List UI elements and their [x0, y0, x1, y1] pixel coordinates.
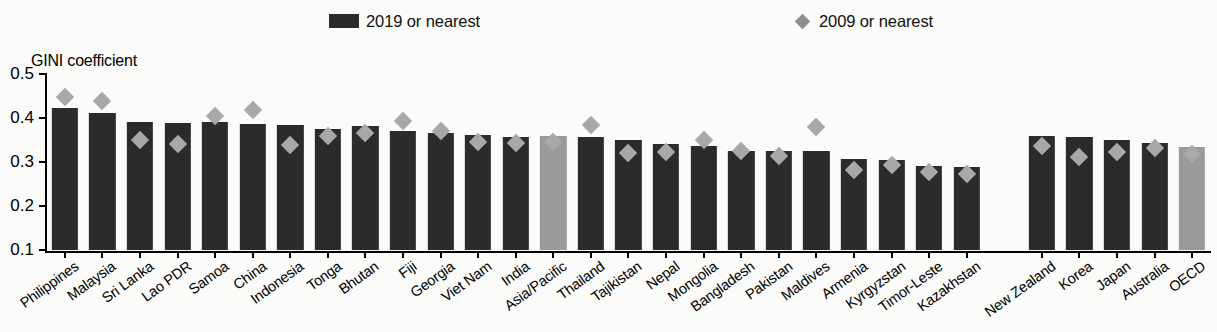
x-axis-tick-mark	[440, 251, 442, 258]
x-axis-tick-mark	[402, 251, 404, 258]
x-axis-tick-mark	[665, 251, 667, 258]
chart-category-slot: Viet Nam	[459, 0, 497, 332]
chart-bar	[465, 135, 491, 250]
chart-figure: 2019 or nearest 2009 or nearest GINI coe…	[0, 0, 1217, 332]
chart-bar	[728, 151, 754, 250]
chart-bar	[803, 151, 829, 250]
x-axis-tick-mark	[364, 251, 366, 258]
chart-category-slot: OECD	[1173, 0, 1211, 332]
x-axis-tick-mark	[214, 251, 216, 258]
chart-category-slot: Bhutan	[347, 0, 385, 332]
x-axis-tick-mark	[928, 251, 930, 258]
y-axis-tick-mark	[39, 205, 46, 207]
chart-bar	[578, 137, 604, 250]
chart-category-slot: New Zealand	[1023, 0, 1061, 332]
x-axis-tick-mark	[815, 251, 817, 258]
x-axis-tick-mark	[740, 251, 742, 258]
y-axis-tick-mark	[39, 161, 46, 163]
y-axis-tick-label: 0.5	[0, 65, 34, 82]
x-axis-tick-mark	[703, 251, 705, 258]
x-axis-tick-mark	[101, 251, 103, 258]
chart-diamond-marker	[93, 92, 111, 110]
chart-diamond-marker	[582, 115, 600, 133]
x-axis-tick-mark	[1116, 251, 1118, 258]
y-axis-tick-label: 0.2	[0, 197, 34, 214]
chart-bar	[352, 126, 378, 250]
chart-bar	[766, 151, 792, 250]
x-axis-tick-mark	[891, 251, 893, 258]
y-axis-tick-label: 0.1	[0, 241, 34, 258]
chart-diamond-marker	[56, 88, 74, 106]
chart-category-slot: Samoa	[196, 0, 234, 332]
x-axis-category-label: Fiji	[396, 258, 420, 281]
chart-category-slot: Korea	[1061, 0, 1099, 332]
y-axis-tick-mark	[39, 73, 46, 75]
chart-diamond-marker	[807, 118, 825, 136]
x-axis-category-label: Korea	[1056, 258, 1096, 293]
x-axis-tick-mark	[552, 251, 554, 258]
x-axis-tick-mark	[327, 251, 329, 258]
chart-bar	[1141, 143, 1167, 250]
chart-category-slot: Tajikistan	[610, 0, 648, 332]
x-axis-tick-mark	[853, 251, 855, 258]
chart-bar	[390, 131, 416, 250]
y-axis-tick-label: 0.4	[0, 109, 34, 126]
x-axis-tick-mark	[177, 251, 179, 258]
chart-category-slot: Indonesia	[271, 0, 309, 332]
x-axis-tick-mark	[1154, 251, 1156, 258]
chart-category-slot: Kazakhstan	[948, 0, 986, 332]
x-axis-tick-mark	[590, 251, 592, 258]
chart-bar	[240, 124, 266, 250]
chart-bar	[503, 137, 529, 250]
x-axis-tick-mark	[1078, 251, 1080, 258]
x-axis-tick-mark	[289, 251, 291, 258]
y-axis-tick-label: 0.3	[0, 153, 34, 170]
chart-bar	[690, 146, 716, 250]
chart-diamond-marker	[243, 101, 261, 119]
chart-diamond-marker	[394, 112, 412, 130]
chart-bar	[427, 133, 453, 250]
chart-bar	[52, 108, 78, 250]
x-axis-tick-mark	[515, 251, 517, 258]
x-axis-tick-mark	[477, 251, 479, 258]
y-axis-tick-mark	[39, 249, 46, 251]
x-axis-tick-mark	[1191, 251, 1193, 258]
y-axis-tick-mark	[39, 117, 46, 119]
x-axis-tick-mark	[139, 251, 141, 258]
chart-bar	[202, 122, 228, 250]
x-axis-tick-mark	[252, 251, 254, 258]
x-axis-tick-mark	[627, 251, 629, 258]
x-axis-tick-mark	[778, 251, 780, 258]
chart-bar	[540, 136, 566, 250]
x-axis-tick-mark	[966, 251, 968, 258]
x-axis-tick-mark	[1041, 251, 1043, 258]
chart-bar	[89, 113, 115, 250]
plot-area: PhilippinesMalaysiaSri LankaLao PDRSamoa…	[46, 0, 1211, 332]
chart-bar	[315, 129, 341, 250]
x-axis-tick-mark	[64, 251, 66, 258]
